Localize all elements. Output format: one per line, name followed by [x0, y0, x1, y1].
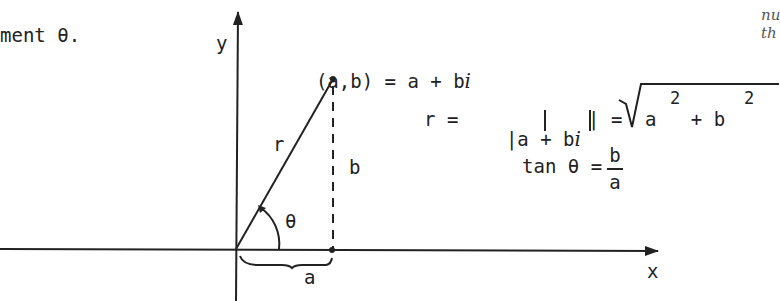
angle-arc [261, 208, 279, 249]
y-axis [236, 12, 238, 301]
sqrt-body: a + b [645, 110, 725, 129]
point-a-on-axis [329, 247, 335, 253]
vector-r-label: r [273, 135, 284, 154]
tan-fraction: b a [607, 144, 623, 193]
exponent-a: 2 [670, 88, 680, 108]
tan-denominator: a [609, 171, 620, 193]
fraction-bar [607, 168, 623, 170]
margin-note-line-1: nu [761, 8, 780, 23]
tan-numerator: b [609, 144, 620, 166]
x-axis-label: x [647, 262, 658, 281]
horizontal-a-label: a [304, 268, 315, 287]
tan-lhs: tan θ = [522, 157, 602, 176]
modulus-abs-body: |a + bi [483, 110, 581, 149]
exponent-b: 2 [744, 88, 754, 108]
header-text: ment θ. [0, 26, 80, 45]
brace-a [240, 256, 332, 268]
modulus-abs-close: | = [588, 110, 622, 129]
angle-theta-label: θ [285, 212, 296, 231]
modulus-lhs: r = [424, 110, 458, 129]
margin-note-line-2: th [761, 26, 777, 41]
y-axis-label: y [216, 34, 227, 53]
point-label: (a,b) = a + bi [293, 52, 471, 91]
vertical-b-label: b [349, 158, 360, 177]
